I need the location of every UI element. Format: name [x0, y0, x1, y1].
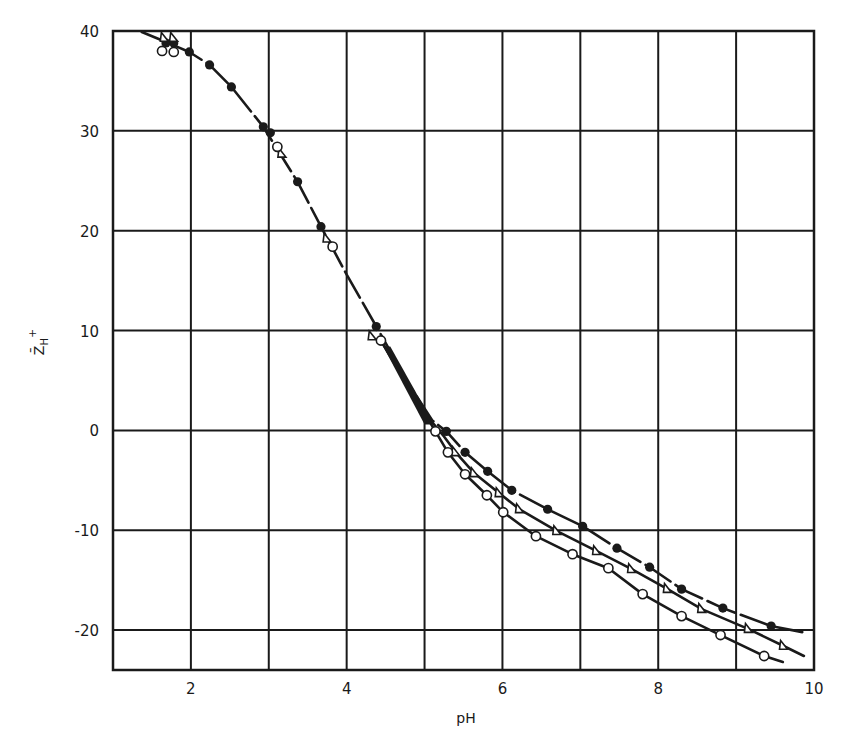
open-circle-marker — [443, 448, 452, 457]
y-tick-label: 10 — [80, 323, 99, 341]
open-circle-marker — [760, 651, 769, 660]
filled-circle-marker — [767, 621, 776, 630]
open-triangle-marker — [593, 546, 601, 555]
x-tick-label: 4 — [342, 680, 352, 698]
filled-circle-marker — [266, 128, 275, 137]
x-tick-label: 8 — [653, 680, 663, 698]
filled-circle-marker — [205, 60, 214, 69]
filled-circle-marker — [578, 522, 587, 531]
open-circle-marker — [169, 47, 178, 56]
filled-circle-marker — [677, 585, 686, 594]
open-triangle-marker — [516, 504, 524, 513]
open-triangle-marker — [698, 604, 706, 613]
open-triangle-marker — [744, 624, 752, 633]
filled-circle-marker — [185, 47, 194, 56]
filled-circle-marker — [227, 82, 236, 91]
open-circle-marker — [716, 630, 725, 639]
plot-frame — [113, 31, 814, 670]
curve-filled-circle — [142, 32, 803, 632]
y-tick-label: 40 — [80, 23, 99, 41]
open-circle-marker — [531, 532, 540, 541]
filled-circle-marker — [543, 505, 552, 514]
open-circle-marker — [376, 336, 385, 345]
open-triangle-marker — [780, 641, 788, 650]
open-circle-marker — [460, 470, 469, 479]
open-circle-marker — [273, 142, 282, 151]
y-axis-label-sub: H — [39, 338, 50, 346]
open-circle-marker — [328, 242, 337, 251]
y-axis-label: Z̄H+ — [26, 329, 50, 355]
y-tick-label: -20 — [75, 622, 100, 640]
filled-circle-marker — [645, 563, 654, 572]
filled-circle-marker — [316, 222, 325, 231]
overlap-band — [383, 347, 434, 425]
filled-circle-marker — [612, 544, 621, 553]
open-triangle-marker — [323, 233, 331, 242]
open-triangle-marker — [160, 33, 168, 42]
open-triangle-marker — [663, 584, 671, 593]
open-circle-marker — [157, 46, 166, 55]
filled-circle-marker — [442, 427, 451, 436]
x-axis-label: pH — [456, 710, 475, 726]
filled-circle-marker — [293, 177, 302, 186]
open-circle-marker — [638, 590, 647, 599]
y-tick-label: -10 — [75, 522, 100, 540]
open-circle-marker — [431, 427, 440, 436]
y-tick-label: 20 — [80, 223, 99, 241]
open-circle-marker — [499, 508, 508, 517]
x-tick-label: 6 — [498, 680, 508, 698]
open-triangle-marker — [170, 33, 178, 42]
open-triangle-marker — [368, 331, 376, 340]
y-tick-label: 30 — [80, 123, 99, 141]
filled-circle-marker — [507, 486, 516, 495]
y-axis-ticks: -20-10010203040 — [75, 23, 100, 640]
filled-circle-marker — [483, 467, 492, 476]
filled-circle-marker — [460, 448, 469, 457]
x-axis-ticks: 246810 — [186, 680, 823, 698]
filled-circle-marker — [718, 603, 727, 612]
gridlines — [113, 31, 814, 670]
x-tick-label: 10 — [804, 680, 823, 698]
curve-open-triangle — [381, 341, 804, 657]
filled-circle-marker — [259, 122, 268, 131]
y-tick-label: 0 — [89, 422, 99, 440]
titration-chart: 246810 -20-10010203040 pH Z̄H+ — [0, 0, 848, 748]
fitted-curves — [142, 32, 804, 662]
open-circle-marker — [568, 550, 577, 559]
data-markers — [157, 33, 787, 661]
open-circle-marker — [482, 491, 491, 500]
open-circle-marker — [604, 564, 613, 573]
y-axis-label-main: Z̄ — [30, 346, 47, 356]
filled-circle-marker — [372, 322, 381, 331]
open-triangle-marker — [628, 564, 636, 573]
svg-text:Z̄H+: Z̄H+ — [26, 329, 50, 355]
curve-open-circle — [381, 341, 783, 663]
open-circle-marker — [677, 611, 686, 620]
open-triangle-marker — [470, 468, 478, 477]
y-axis-label-sup: + — [26, 329, 39, 338]
x-tick-label: 2 — [186, 680, 196, 698]
